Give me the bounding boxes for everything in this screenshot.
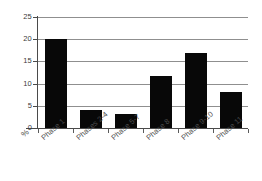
y-axis-line bbox=[37, 16, 38, 129]
y-axis-tick-label: 25 bbox=[14, 13, 32, 21]
plot-area bbox=[38, 17, 248, 128]
x-axis-tick-mark bbox=[143, 129, 144, 133]
x-axis-tick-mark bbox=[248, 129, 249, 133]
y-axis-tick-label: 20 bbox=[14, 35, 32, 43]
bar bbox=[45, 39, 67, 128]
x-axis-tick-mark bbox=[38, 129, 39, 133]
y-axis-tick-label: 10 bbox=[14, 80, 32, 88]
x-axis-tick-labels: Phase 1Phases 2-4Phase 5-7Phase 8Phase 9… bbox=[0, 128, 262, 181]
x-axis-tick-mark bbox=[178, 129, 179, 133]
y-axis-tick-label: 5 bbox=[14, 102, 32, 110]
y-axis-tick-label: 15 bbox=[14, 57, 32, 65]
x-axis-tick-mark bbox=[213, 129, 214, 133]
y-axis-tick-mark bbox=[33, 17, 38, 18]
gridline bbox=[38, 106, 248, 107]
gridline bbox=[38, 61, 248, 62]
x-axis-tick-mark bbox=[108, 129, 109, 133]
y-axis-tick-mark bbox=[33, 39, 38, 40]
gridline bbox=[38, 84, 248, 85]
y-axis-tick-mark bbox=[33, 61, 38, 62]
gridline bbox=[38, 17, 248, 18]
gridline bbox=[38, 39, 248, 40]
bar-chart: 0510152025 % Phase 1Phases 2-4Phase 5-7P… bbox=[0, 0, 262, 181]
y-axis-tick-mark bbox=[33, 84, 38, 85]
y-axis-tick-mark bbox=[33, 106, 38, 107]
x-axis-tick-mark bbox=[73, 129, 74, 133]
